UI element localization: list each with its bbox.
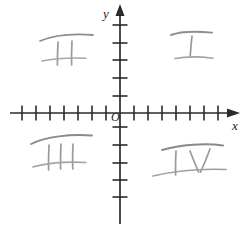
quadrant-label-ii: II [36,31,98,73]
x-axis-group [10,106,240,121]
quadrant-ii-pencil-glyph [36,31,98,73]
coordinate-plane-figure: y x O I II [0,0,248,225]
x-axis-arrowhead [227,109,240,118]
quadrant-label-iv: IV [150,140,232,184]
quadrant-iv-pencil-glyph [150,140,232,184]
y-axis-arrowhead [116,4,125,16]
y-axis-label: y [103,7,109,20]
origin-label: O [111,111,120,123]
x-axis-label: x [232,119,238,132]
quadrant-iii-pencil-glyph [28,132,98,178]
quadrant-i-pencil-glyph [168,28,220,66]
quadrant-label-i: I [168,28,220,66]
quadrant-label-iii: III [28,132,98,178]
